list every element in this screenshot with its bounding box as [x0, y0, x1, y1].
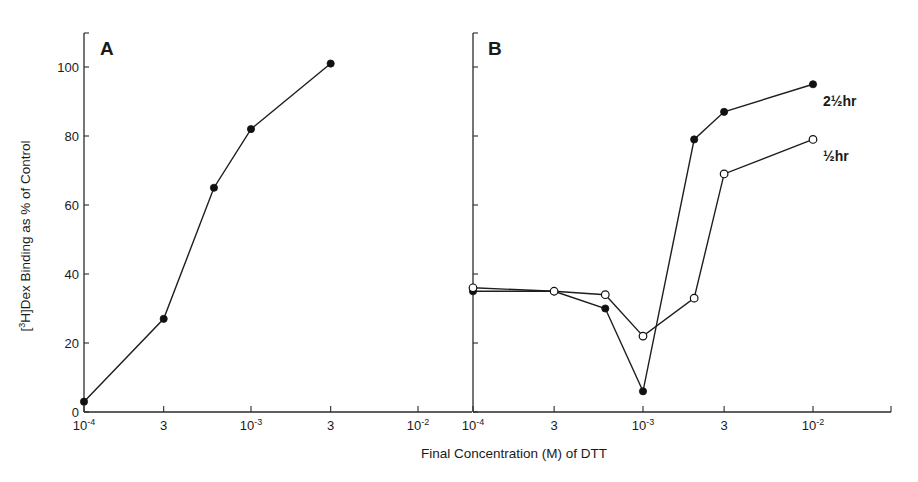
y-axis-title: [3H]Dex Binding as % of Control — [17, 140, 33, 331]
series-label: ½hr — [823, 148, 849, 164]
x-tick-label: 3 — [327, 418, 334, 433]
x-tick-label: 10-3 — [240, 417, 262, 433]
panel-label: B — [488, 38, 502, 59]
x-tick-label: 3 — [720, 418, 727, 433]
y-tick-label: 40 — [65, 267, 79, 282]
chart-figure: 02040608010010-4310-3310-2A 10-4310-3310… — [0, 0, 918, 482]
y-tick-label: 20 — [65, 336, 79, 351]
series-line — [473, 139, 813, 336]
data-point-filled — [721, 108, 728, 115]
data-point-filled — [691, 136, 698, 143]
y-tick-label: 100 — [57, 60, 79, 75]
data-point-open — [601, 291, 609, 299]
data-point-open — [469, 284, 477, 292]
data-point-open — [690, 294, 698, 302]
x-tick-label: 10-2 — [407, 417, 429, 433]
panel-label: A — [100, 38, 114, 59]
data-point-filled — [639, 388, 646, 395]
data-point-open — [720, 170, 728, 178]
data-point-filled — [210, 184, 217, 191]
x-tick-label: 10-4 — [462, 417, 484, 433]
data-point-filled — [602, 305, 609, 312]
series-label: 2½hr — [823, 93, 857, 109]
series-line — [84, 64, 331, 402]
panel-b: 10-4310-3310-2B2½hr½hr — [462, 33, 891, 433]
x-axis-title: Final Concentration (M) of DTT — [421, 446, 607, 461]
data-point-open — [809, 136, 817, 144]
data-point-filled — [80, 398, 87, 405]
data-point-filled — [809, 81, 816, 88]
data-point-filled — [247, 126, 254, 133]
data-point-open — [550, 287, 558, 295]
y-tick-label: 60 — [65, 198, 79, 213]
series-line — [473, 84, 813, 391]
data-point-open — [639, 332, 647, 340]
data-point-filled — [160, 315, 167, 322]
x-tick-label: 3 — [550, 418, 557, 433]
x-tick-label: 3 — [160, 418, 167, 433]
x-tick-label: 10-4 — [73, 417, 95, 433]
x-tick-label: 10-2 — [802, 417, 824, 433]
panel-a: 02040608010010-4310-3310-2A — [57, 33, 472, 433]
y-tick-label: 80 — [65, 129, 79, 144]
data-point-filled — [327, 60, 334, 67]
x-tick-label: 10-3 — [632, 417, 654, 433]
